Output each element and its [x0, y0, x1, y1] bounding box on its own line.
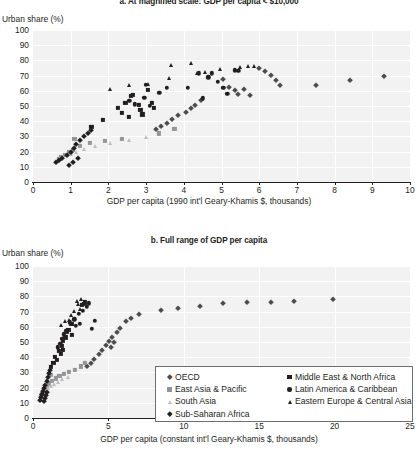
- data-point-circle: [225, 92, 229, 96]
- legend-item-label: Middle East & North Africa: [295, 373, 395, 382]
- x-axis-tick-label: 20: [330, 422, 339, 430]
- x-axis-tick-label: 6: [257, 186, 262, 194]
- legend-item: Eastern Europe & Central Asia: [284, 396, 412, 408]
- data-point-circle: [157, 91, 161, 95]
- data-point-square: [127, 115, 131, 119]
- data-point-circle: [72, 317, 76, 321]
- x-axis-tick-label: 0: [31, 186, 36, 194]
- x-axis-tick-label: 5: [106, 422, 111, 430]
- legend-item: OECD: [164, 371, 250, 383]
- x-axis-tick-label: 0: [31, 422, 36, 430]
- data-point-square: [61, 348, 65, 352]
- data-point-circle: [165, 86, 169, 90]
- y-axis-tick-label: 100: [15, 26, 29, 34]
- y-axis-tick-label: 70: [20, 71, 29, 79]
- data-point-triangle: [169, 63, 173, 67]
- legend-item-label: Sub-Saharan Africa: [175, 410, 250, 419]
- data-point-square: [138, 108, 142, 112]
- legend-item: South Asia: [164, 396, 250, 408]
- gridline-horizontal: [33, 342, 410, 343]
- x-axis-tick-label: 10: [405, 186, 414, 194]
- legend-marker-diamond-icon: [164, 409, 175, 420]
- legend-column-1: OECDEast Asia & PacificSouth AsiaSub-Sah…: [164, 371, 250, 420]
- panel-b-y-axis-label: Urban share (%): [2, 248, 63, 258]
- data-point-circle: [93, 319, 97, 323]
- data-point-triangle: [59, 323, 63, 327]
- legend-diamond-icon: [168, 412, 172, 416]
- data-point-square: [59, 352, 63, 356]
- x-axis-tick-label: 1: [68, 186, 73, 194]
- data-point-circle: [78, 322, 82, 326]
- y-axis-tick-label: 40: [20, 117, 29, 125]
- data-point-square: [83, 361, 87, 365]
- data-point-triangle: [72, 309, 76, 313]
- data-point-triangle: [93, 144, 97, 148]
- legend-marker-circle-icon: [284, 384, 295, 395]
- data-point-circle: [206, 75, 210, 79]
- y-axis-tick-label: 20: [20, 383, 29, 391]
- y-axis-tick-label: 20: [20, 147, 29, 155]
- data-point-circle: [236, 69, 240, 73]
- figure-container: a. At magnified scale: GDP per capita < …: [0, 0, 418, 456]
- y-axis-tick-label: 10: [20, 162, 29, 170]
- data-point-square: [131, 93, 135, 97]
- x-axis-tick-label: 7: [295, 186, 300, 194]
- data-point-triangle: [78, 307, 82, 311]
- y-axis-tick-label: 30: [20, 132, 29, 140]
- data-point-square: [152, 105, 156, 109]
- data-point-triangle: [203, 70, 207, 74]
- y-axis-tick-label: 0: [24, 178, 29, 186]
- data-point-square: [172, 127, 176, 131]
- gridline-horizontal: [33, 281, 410, 282]
- data-point-square: [140, 112, 144, 116]
- x-axis-tick-label: 3: [144, 186, 149, 194]
- data-point-square: [136, 103, 140, 107]
- legend-triangle-icon: [168, 400, 172, 404]
- legend-square-icon: [167, 387, 171, 391]
- x-axis-tick-label: 25: [405, 422, 414, 430]
- data-point-circle: [87, 301, 91, 305]
- data-point-triangle: [76, 302, 80, 306]
- y-axis-tick-label: 60: [20, 322, 29, 330]
- y-axis-tick-label: 60: [20, 86, 29, 94]
- gridline-horizontal: [33, 312, 410, 313]
- data-point-triangle: [56, 380, 60, 384]
- data-point-circle: [84, 305, 88, 309]
- panel-b-title: b. Full range of GDP per capita: [0, 236, 418, 245]
- data-point-square: [103, 139, 107, 143]
- data-point-triangle: [218, 67, 222, 71]
- y-axis-tick-label: 80: [20, 56, 29, 64]
- data-point-triangle: [108, 87, 112, 91]
- gridline-vertical: [372, 30, 373, 182]
- legend-circle-icon: [287, 387, 291, 391]
- x-axis-tick-label: 2: [106, 186, 111, 194]
- data-point-square: [120, 111, 124, 115]
- panel-a-x-axis-label: GDP per capita (1990 int'l Geary-Khamis …: [0, 196, 418, 206]
- data-point-triangle: [146, 82, 150, 86]
- y-axis-tick-label: 40: [20, 353, 29, 361]
- panel-b-x-axis-label: GDP per capita (constant int'l Geary-Kha…: [0, 434, 418, 444]
- legend-marker-triangle-icon: [164, 396, 175, 407]
- data-point-triangle: [79, 297, 83, 301]
- legend-diamond-icon: [168, 375, 172, 379]
- gridline-horizontal: [33, 357, 410, 358]
- legend-item-label: Latin America & Caribbean: [295, 385, 397, 394]
- legend-triangle-icon: [288, 400, 292, 404]
- gridline-horizontal: [33, 296, 410, 297]
- x-axis-tick-label: 10: [179, 422, 188, 430]
- panel-a-y-axis-label: Urban share (%): [2, 14, 63, 24]
- data-point-triangle: [246, 64, 250, 68]
- legend-marker-diamond-icon: [164, 372, 175, 383]
- y-axis-tick-label: 80: [20, 292, 29, 300]
- data-point-triangle: [144, 135, 148, 139]
- y-axis-tick-label: 100: [15, 262, 29, 270]
- legend-item: East Asia & Pacific: [164, 383, 250, 395]
- panel-a-title: a. At magnified scale: GDP per capita < …: [0, 0, 418, 6]
- y-axis-tick-label: 50: [20, 102, 29, 110]
- y-axis-tick-label: 90: [20, 277, 29, 285]
- data-point-triangle: [74, 150, 78, 154]
- x-axis-tick-label: 4: [181, 186, 186, 194]
- data-point-circle: [200, 96, 204, 100]
- y-axis-tick-label: 90: [20, 41, 29, 49]
- data-point-square: [87, 141, 91, 145]
